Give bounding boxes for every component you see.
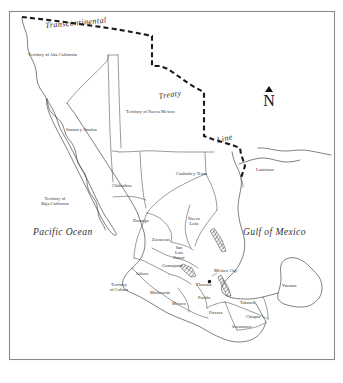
label-yucatan: Yucatan bbox=[282, 284, 296, 289]
label-durango: Durango bbox=[133, 219, 149, 224]
label-nuevo-leon-line2: León bbox=[184, 222, 204, 227]
label-san-luis-potosi: San Luis Potosí bbox=[170, 246, 188, 261]
pacific-ocean-label: Pacific Ocean bbox=[33, 227, 93, 238]
label-michoacan: Michoacán bbox=[150, 291, 170, 296]
label-territory-of-baja-california: Territory of Baja California bbox=[32, 197, 78, 207]
mexico-city-label: México City bbox=[214, 269, 237, 274]
gulf-of-mexico-label: Gulf of Mexico bbox=[243, 227, 306, 238]
map-frame bbox=[10, 12, 335, 360]
label-louisiana: Louisiana bbox=[256, 168, 274, 173]
label-soconusco: Soconusco bbox=[232, 325, 251, 330]
label-oaxaca: Oaxaca bbox=[209, 311, 222, 316]
label-zacatecas: Zacatecas bbox=[152, 238, 170, 243]
label-nuevo-leon: Nuevo León bbox=[184, 217, 204, 227]
label-puebla: Puebla bbox=[198, 296, 210, 301]
label-territory-of-colima: Territory of Colima bbox=[104, 283, 134, 293]
label-guanajuato: Guanajuato bbox=[162, 264, 183, 269]
label-chihuahua: Chihuahua bbox=[112, 184, 131, 189]
north-arrow-letter: N bbox=[258, 93, 280, 109]
label-slp-line3: Potosí bbox=[170, 256, 188, 261]
label-chiapas: Chiapas bbox=[246, 315, 260, 320]
label-sonora-y-sinaloa: Sonora y Sinaloa bbox=[66, 128, 97, 133]
label-mexico: México bbox=[172, 302, 186, 307]
label-baja-line2: Baja California bbox=[32, 202, 78, 207]
label-colima-line2: of Colima bbox=[104, 288, 134, 293]
label-territory-of-alta-california: Territory of Alta California bbox=[28, 53, 77, 58]
label-coahuila-y-texas: Coahuila y Texas bbox=[176, 172, 207, 177]
label-territory-of-nuevo-mexico: Territory of Nuevo México bbox=[126, 110, 175, 115]
label-tabasco: Tabasco bbox=[240, 301, 255, 306]
label-jalisco: Jalisco bbox=[136, 272, 148, 277]
historical-map: Pacific Ocean Gulf of Mexico Transcontin… bbox=[0, 0, 343, 383]
north-arrow: N bbox=[258, 86, 280, 109]
label-tlaxcala: Tlaxcala bbox=[196, 283, 211, 288]
